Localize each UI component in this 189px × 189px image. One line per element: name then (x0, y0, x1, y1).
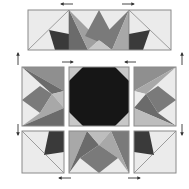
bottom-left-corner (22, 131, 64, 173)
top-flying-geese-unit (28, 10, 171, 50)
middle-right-unit (134, 67, 176, 126)
quilt-assembly-diagram (0, 0, 189, 189)
middle-left-unit (22, 67, 64, 126)
center-octagon-unit (69, 67, 129, 126)
center-octagon (69, 67, 129, 126)
bottom-center-unit (69, 131, 129, 173)
bottom-right-corner (134, 131, 176, 173)
